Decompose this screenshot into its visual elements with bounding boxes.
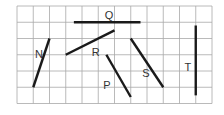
segment-n bbox=[33, 39, 49, 88]
label-s: S bbox=[142, 67, 149, 79]
label-n: N bbox=[35, 48, 43, 60]
grid-lines bbox=[17, 6, 212, 104]
grid-diagram: Q R N P S T bbox=[0, 0, 224, 115]
segment-r bbox=[66, 30, 115, 54]
label-t: T bbox=[184, 61, 191, 73]
label-q: Q bbox=[105, 9, 114, 21]
label-r: R bbox=[92, 46, 100, 58]
label-p: P bbox=[103, 79, 110, 91]
